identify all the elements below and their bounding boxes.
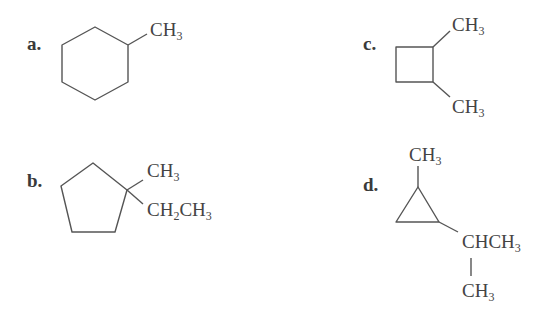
- cyclopropane-ring: [396, 187, 439, 222]
- formula-subscript: 3: [488, 290, 494, 304]
- formula-subscript: 3: [176, 29, 182, 43]
- formula-c-methyl-bottom: CH3: [452, 97, 484, 116]
- bond-c-methyl-bottom: [433, 82, 450, 97]
- formula-text: CH: [409, 144, 435, 165]
- bond-b-ethyl: [127, 190, 143, 204]
- formula-text: CH: [147, 160, 173, 181]
- formula-a-methyl: CH3: [150, 20, 182, 39]
- formula-b-ethyl: CH2CH3: [147, 200, 212, 219]
- bond-b-methyl: [127, 180, 143, 190]
- formula-text: CH: [452, 14, 478, 35]
- formula-text: CH: [452, 96, 478, 117]
- formula-subscript: 3: [478, 24, 484, 38]
- formula-text: CH: [147, 199, 173, 220]
- bond-a-methyl: [128, 34, 147, 45]
- bond-d-isopropyl: [439, 222, 458, 232]
- label-a: a.: [27, 33, 41, 55]
- cyclobutane-ring: [396, 47, 433, 82]
- label-c: c.: [363, 33, 376, 55]
- formula-subscript: 3: [478, 106, 484, 120]
- formula-text: CH: [462, 280, 488, 301]
- formula-subscript: 3: [515, 241, 521, 255]
- formula-b-methyl: CH3: [147, 161, 179, 180]
- formula-text: CHCH: [462, 231, 515, 252]
- formula-c-methyl-top: CH3: [452, 15, 484, 34]
- bond-c-methyl-top: [433, 31, 450, 47]
- formula-d-methyl-top: CH3: [409, 145, 441, 164]
- formula-text: CH: [150, 19, 176, 40]
- formula-subscript: 3: [435, 154, 441, 168]
- formula-text: CH: [179, 199, 205, 220]
- cyclohexane-ring: [62, 27, 128, 100]
- structures-canvas: [0, 0, 555, 315]
- formula-subscript: 3: [206, 209, 212, 223]
- label-d: d.: [363, 174, 378, 196]
- formula-d-isopropyl: CHCH3: [462, 232, 521, 251]
- formula-subscript: 3: [173, 170, 179, 184]
- label-b: b.: [27, 170, 42, 192]
- cyclopentane-ring: [61, 163, 127, 232]
- formula-d-isopropyl-methyl: CH3: [462, 281, 494, 300]
